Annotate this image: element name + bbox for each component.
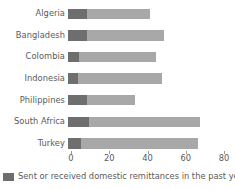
legend-line: Sent or received domestic remittances in… (18, 171, 235, 181)
category-label-philippines: Philippines (0, 96, 68, 105)
x-axis-tick-label: 20 (104, 154, 115, 163)
bar-row: Bangladesh (0, 25, 235, 47)
bar-track (68, 95, 235, 106)
x-axis-tick-label: 60 (180, 154, 191, 163)
chart-legend: Sent or received domestic remittances in… (3, 171, 235, 181)
x-axis-tick-label: 0 (68, 154, 73, 163)
bar-segment-primary (68, 117, 89, 128)
bar-segment-remainder (79, 52, 156, 63)
plot-area: AlgeriaBangladeshColombiaIndonesiaPhilip… (0, 0, 235, 160)
legend-label: Sent or received domestic remittances in… (18, 171, 235, 181)
x-axis-tick-label: 80 (219, 154, 230, 163)
bar-row: Philippines (0, 89, 235, 111)
bar-segment-primary (68, 9, 87, 20)
bar-track (68, 138, 235, 149)
bar-segment-remainder (89, 117, 200, 128)
category-label-algeria: Algeria (0, 9, 68, 18)
legend-swatch-icon (3, 173, 14, 181)
bar-track (68, 9, 235, 20)
bar-segment-primary (68, 73, 78, 84)
x-axis-tick-label: 40 (142, 154, 153, 163)
bar-row: Indonesia (0, 68, 235, 90)
category-label-turkey: Turkey (0, 139, 68, 148)
bar-segment-primary (68, 52, 79, 63)
category-label-indonesia: Indonesia (0, 74, 68, 83)
bar-segment-remainder (87, 95, 135, 106)
bar-row: South Africa (0, 111, 235, 133)
bar-row: Colombia (0, 46, 235, 68)
category-label-bangladesh: Bangladesh (0, 31, 68, 40)
bar-track (68, 73, 235, 84)
stacked-bar-chart: AlgeriaBangladeshColombiaIndonesiaPhilip… (0, 0, 235, 189)
bar-segment-primary (68, 138, 81, 149)
x-axis: 020406080 (0, 151, 235, 165)
bar-track (68, 117, 235, 128)
bar-segment-remainder (81, 138, 198, 149)
bar-track (68, 30, 235, 41)
bar-segment-primary (68, 30, 87, 41)
bar-segment-remainder (87, 30, 164, 41)
bar-segment-primary (68, 95, 87, 106)
bar-segment-remainder (78, 73, 162, 84)
bar-row: Algeria (0, 3, 235, 25)
bar-track (68, 52, 235, 63)
category-label-south-africa: South Africa (0, 117, 68, 126)
bar-segment-remainder (87, 9, 150, 20)
category-label-colombia: Colombia (0, 52, 68, 61)
